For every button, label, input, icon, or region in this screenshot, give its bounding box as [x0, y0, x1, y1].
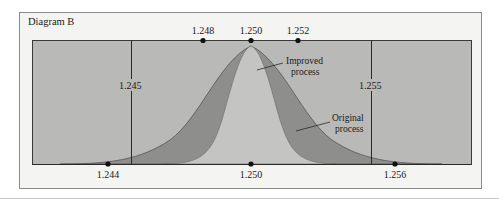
- bottom-tick-dot: [392, 161, 397, 166]
- diagram-title: Diagram B: [28, 16, 74, 27]
- improved-label-line2: process: [291, 67, 320, 77]
- bottom-tick-dot: [105, 161, 110, 166]
- improved-label-line1: Improved: [286, 56, 323, 66]
- original-label-line1: Original: [332, 113, 364, 123]
- bottom-tick-label: 1.250: [240, 169, 263, 180]
- bottom-tick-dot: [248, 161, 253, 166]
- bottom-tick-label: 1.256: [384, 169, 407, 180]
- lower-spec-label: 1.245: [119, 80, 142, 91]
- top-tick-label: 1.250: [240, 25, 263, 36]
- top-tick-dot: [295, 38, 300, 43]
- top-tick-dot: [248, 38, 253, 43]
- upper-spec-label: 1.255: [359, 80, 382, 91]
- process-distribution-diagram: Diagram B 1.245 1.255 1.248 1.250 1.252 …: [0, 0, 499, 201]
- top-tick-dot: [200, 38, 205, 43]
- top-tick-label: 1.252: [287, 25, 310, 36]
- top-tick-label: 1.248: [192, 25, 215, 36]
- original-label-line2: process: [335, 124, 364, 134]
- bottom-tick-label: 1.244: [97, 169, 120, 180]
